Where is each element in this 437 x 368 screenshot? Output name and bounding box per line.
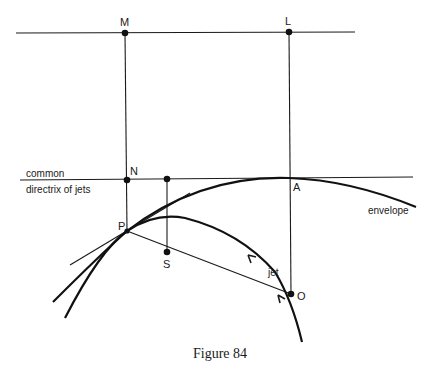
figure-caption: Figure 84 (193, 346, 247, 361)
label-envelope: envelope (368, 205, 409, 216)
label-O: O (297, 290, 306, 302)
point-directrix-S (164, 176, 171, 183)
point-O (288, 291, 295, 298)
label-N: N (130, 165, 138, 177)
label-jet: jet (267, 267, 279, 278)
label-P: P (118, 220, 125, 232)
point-N (124, 177, 131, 184)
label-L: L (285, 15, 291, 27)
point-M (122, 30, 129, 37)
label-S: S (163, 258, 170, 270)
point-S (164, 249, 171, 256)
top-line (16, 32, 355, 33)
line-LO (289, 32, 291, 294)
jet-arrow-upper-icon (248, 255, 256, 263)
envelope-curve (53, 178, 416, 302)
jet-arrow-lower-icon (278, 295, 285, 303)
label-directrix-line1: common (26, 168, 64, 179)
label-A: A (293, 181, 301, 193)
label-directrix-line2: directrix of jets (26, 184, 90, 195)
jet-curve (65, 217, 302, 342)
point-L (286, 29, 293, 36)
line-MP (125, 33, 127, 231)
figure-84-diagram: M L N A P S O common directrix of jets e… (0, 0, 437, 368)
directrix-line (20, 177, 413, 180)
label-M: M (120, 16, 129, 28)
